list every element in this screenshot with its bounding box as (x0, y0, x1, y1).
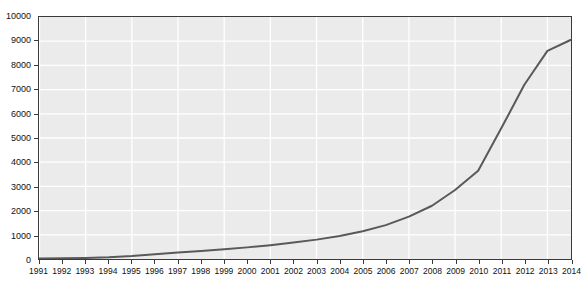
x-tick-label: 2003 (307, 266, 326, 276)
data-series-line (39, 17, 571, 259)
x-tick-mark (154, 260, 155, 264)
x-tick-mark (224, 260, 225, 264)
x-tick-mark (317, 260, 318, 264)
x-tick-label: 2010 (469, 266, 488, 276)
y-tick-label: 3000 (11, 182, 31, 191)
x-tick-mark (340, 260, 341, 264)
x-tick-label: 1994 (99, 266, 118, 276)
x-tick-label: 2011 (493, 266, 511, 276)
y-tick-label: 9000 (11, 36, 31, 45)
x-tick-mark (432, 260, 433, 264)
y-axis: 0100020003000400050006000700080009000100… (0, 0, 38, 286)
x-tick-mark (62, 260, 63, 264)
x-tick-mark (108, 260, 109, 264)
y-tick-label: 7000 (11, 85, 31, 94)
x-tick-label: 1999 (214, 266, 233, 276)
x-tick-mark (572, 260, 573, 264)
x-tick-mark (386, 260, 387, 264)
x-tick-label: 2006 (377, 266, 396, 276)
y-tick-label: 5000 (11, 134, 31, 143)
x-tick-mark (479, 260, 480, 264)
x-tick-label: 2000 (238, 266, 257, 276)
y-tick-label: 1000 (11, 231, 31, 240)
x-tick-label: 2002 (284, 266, 303, 276)
x-tick-mark (201, 260, 202, 264)
y-tick-label: 4000 (11, 158, 31, 167)
x-tick-label: 1992 (52, 266, 71, 276)
x-tick-mark (270, 260, 271, 264)
x-tick-mark (293, 260, 294, 264)
x-tick-label: 1997 (168, 266, 187, 276)
y-tick-label: 10000 (6, 12, 31, 21)
y-tick-label: 2000 (11, 207, 31, 216)
x-tick-label: 2004 (330, 266, 349, 276)
x-tick-mark (363, 260, 364, 264)
x-tick-label: 2009 (446, 266, 465, 276)
line-chart: 0100020003000400050006000700080009000100… (0, 0, 581, 286)
x-tick-mark (456, 260, 457, 264)
x-tick-label: 2005 (353, 266, 372, 276)
x-tick-label: 1998 (191, 266, 210, 276)
x-tick-label: 1993 (75, 266, 94, 276)
x-tick-mark (409, 260, 410, 264)
x-tick-label: 2012 (516, 266, 535, 276)
x-tick-mark (502, 260, 503, 264)
x-tick-label: 2001 (261, 266, 280, 276)
x-tick-label: 2008 (423, 266, 442, 276)
y-tick-label: 8000 (11, 60, 31, 69)
series-path (39, 40, 570, 259)
x-tick-label: 1995 (122, 266, 141, 276)
plot-area (38, 16, 572, 260)
x-tick-label: 1996 (145, 266, 164, 276)
x-tick-mark (85, 260, 86, 264)
x-tick-mark (39, 260, 40, 264)
x-tick-mark (525, 260, 526, 264)
x-tick-mark (247, 260, 248, 264)
chart-title (0, 0, 581, 9)
y-tick-label: 6000 (11, 109, 31, 118)
x-tick-label: 2014 (562, 266, 581, 276)
x-tick-mark (178, 260, 179, 264)
x-tick-mark (131, 260, 132, 264)
x-tick-mark (548, 260, 549, 264)
y-tick-label: 0 (26, 256, 31, 265)
x-tick-label: 2013 (539, 266, 558, 276)
x-axis: 1991199219931994199519961997199819992000… (38, 260, 572, 286)
x-tick-label: 2007 (400, 266, 419, 276)
x-tick-label: 1991 (29, 266, 48, 276)
